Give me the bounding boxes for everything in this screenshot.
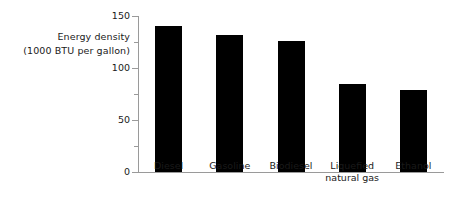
x-axis-label: Liquefied natural gas (322, 160, 383, 183)
chart-figure: Energy density (1000 BTU per gallon) 050… (0, 0, 451, 208)
y-minor-tick-125 (134, 42, 139, 43)
y-tick-mark (132, 120, 139, 121)
x-axis-label: Ethanol (383, 160, 444, 172)
x-axis-label: Gasoline (199, 160, 260, 172)
y-tick-label: 50 (118, 113, 130, 126)
y-axis-title: Energy density (1000 BTU per gallon) (8, 30, 130, 58)
y-minor-tick-75 (134, 94, 139, 95)
bar (339, 84, 366, 172)
y-axis-title-line-2: (1000 BTU per gallon) (8, 44, 130, 58)
y-minor-tick-25 (134, 146, 139, 147)
bar (278, 41, 305, 172)
x-axis-line (138, 172, 444, 173)
y-tick-mark (132, 172, 139, 173)
plot-area: 050100150 (138, 16, 444, 172)
y-tick-mark (132, 68, 139, 69)
x-axis-label: Diesel (138, 160, 199, 172)
y-tick-mark (132, 16, 139, 17)
y-tick-label: 100 (112, 61, 130, 74)
y-tick-label: 0 (124, 165, 130, 178)
bar (155, 26, 182, 172)
bar (216, 35, 243, 172)
x-axis-label: Biodiesel (260, 160, 321, 172)
y-axis-title-line-1: Energy density (8, 30, 130, 44)
y-tick-label: 150 (112, 9, 130, 22)
